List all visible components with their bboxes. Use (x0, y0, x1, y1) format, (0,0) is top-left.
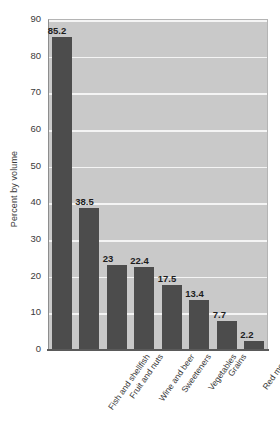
bar-item[interactable]: 7.7 (217, 19, 237, 349)
y-axis-tick-label: 0 (36, 344, 41, 354)
bar-item[interactable]: 23 (107, 19, 127, 349)
y-axis-tick-label: 80 (30, 51, 41, 61)
bar-item[interactable]: 38.5 (79, 19, 99, 349)
bar[interactable] (217, 321, 237, 349)
y-axis-tick-label: 40 (30, 197, 41, 207)
y-axis-tick-label: 60 (30, 124, 41, 134)
bar-item[interactable]: 85.2 (52, 19, 72, 349)
bar[interactable] (79, 208, 99, 349)
y-axis-tick-label: 90 (30, 14, 41, 24)
bar-item[interactable]: 17.5 (162, 19, 182, 349)
y-axis-tick-label: 50 (30, 161, 41, 171)
bar[interactable] (189, 300, 209, 349)
bar[interactable] (162, 285, 182, 349)
bar[interactable] (107, 265, 127, 349)
x-axis-line (47, 349, 269, 351)
x-axis-category-label: Red meats (260, 352, 280, 391)
x-axis-category-labels: Fish and shellfishFruit and nutsWine and… (48, 352, 278, 445)
bar[interactable] (134, 267, 154, 349)
bar-chart: Percent by volume 0102030405060708090 85… (0, 0, 280, 445)
bar-item[interactable]: 13.4 (189, 19, 209, 349)
bar[interactable] (52, 37, 72, 349)
y-axis-tick-labels: 0102030405060708090 (0, 0, 45, 445)
bar-item[interactable]: 2.2 (244, 19, 264, 349)
y-axis-tick-label: 30 (30, 234, 41, 244)
y-axis-tick-label: 10 (30, 307, 41, 317)
bar-value-label: 2.2 (240, 329, 280, 340)
bar-series: 85.238.52322.417.513.47.72.2 (48, 19, 268, 349)
bar[interactable] (244, 341, 264, 349)
y-axis-tick-label: 20 (30, 271, 41, 281)
y-axis-tick-label: 70 (30, 87, 41, 97)
bar-item[interactable]: 22.4 (134, 19, 154, 349)
